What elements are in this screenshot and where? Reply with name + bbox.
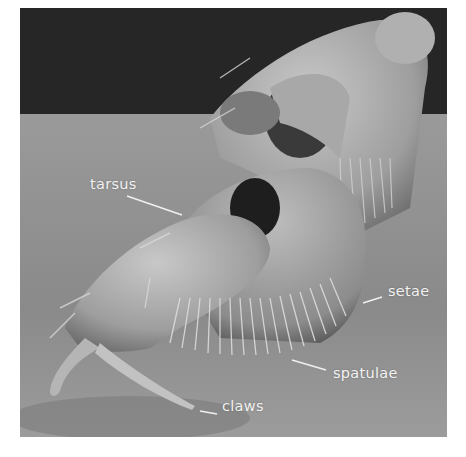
label-tarsus: tarsus xyxy=(90,177,137,192)
label-setae: setae xyxy=(388,284,429,299)
label-spatulae: spatulae xyxy=(333,366,398,381)
label-claws: claws xyxy=(222,399,264,414)
